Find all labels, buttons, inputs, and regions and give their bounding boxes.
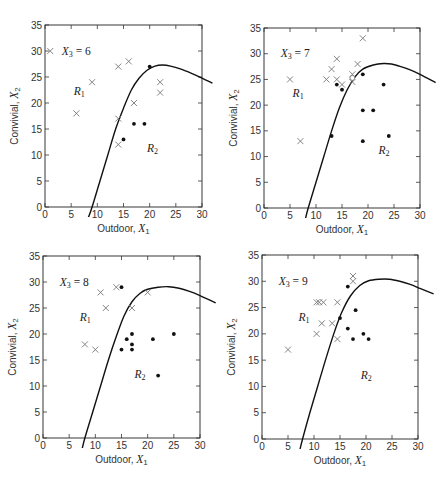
dot-marker (382, 83, 386, 87)
x-tick-label: 20 (142, 440, 154, 451)
y-tick-label: 20 (250, 100, 262, 111)
x-tick-label: 20 (360, 441, 372, 452)
dot-marker (125, 337, 129, 341)
x-tick-label: 10 (308, 441, 320, 452)
y-tick-label: 30 (250, 48, 262, 59)
x-axis-label: Outdoor, X1 (95, 453, 148, 467)
y-tick-label: 20 (29, 329, 41, 340)
y-tick-label: 15 (29, 355, 41, 366)
cross-marker (360, 35, 366, 41)
dot-marker (148, 65, 152, 69)
x-axis-label: Outdoor, X1 (97, 222, 150, 236)
cross-marker (145, 289, 151, 295)
y-tick-label: 5 (255, 177, 261, 188)
region-label-r1: R1 (297, 311, 309, 325)
dot-marker (120, 348, 124, 352)
cross-marker (339, 82, 345, 88)
x-tick-label: 15 (118, 209, 130, 220)
cross-marker (131, 100, 137, 106)
x-tick-label: 25 (388, 210, 400, 221)
y-tick-label: 30 (29, 277, 41, 288)
panel-title: X3 = 8 (59, 276, 89, 290)
y-tick-label: 25 (250, 74, 262, 85)
cross-marker (98, 289, 104, 295)
y-tick-label: 0 (255, 203, 261, 214)
x-tick-label: 15 (116, 440, 128, 451)
circle-marker (350, 75, 355, 80)
y-tick-label: 5 (34, 407, 40, 418)
cross-marker (115, 64, 121, 70)
cross-marker (334, 76, 340, 82)
y-tick-label: 0 (36, 202, 42, 213)
y-tick-label: 30 (31, 46, 43, 57)
y-axis-label: Convivial, X2 (8, 87, 22, 145)
panel-title: X3 = 6 (61, 45, 91, 59)
cross-marker (329, 66, 335, 72)
y-tick-label: 10 (248, 381, 260, 392)
y-tick-label: 10 (31, 150, 43, 161)
panel-x3-8: 05101520253005101520253035Outdoor, X1Con… (6, 251, 216, 468)
y-tick-label: 0 (253, 434, 259, 445)
dot-marker (346, 285, 350, 289)
boundary-curve (88, 65, 212, 217)
boundary-curve (82, 287, 215, 449)
dot-marker (172, 332, 176, 336)
dot-marker (371, 108, 375, 112)
dot-marker (130, 332, 134, 336)
y-tick-label: 25 (31, 72, 43, 83)
cross-marker (320, 299, 326, 305)
panel-x3-6: 05101520253005101520253035Outdoor, X1Con… (8, 20, 212, 237)
cross-marker (82, 341, 88, 347)
y-tick-label: 35 (250, 23, 262, 34)
y-tick-label: 25 (29, 303, 41, 314)
cross-marker (314, 331, 320, 337)
cross-marker (129, 305, 135, 311)
dot-marker (361, 139, 365, 143)
dot-marker (130, 343, 134, 347)
cross-marker (355, 61, 361, 67)
dot-marker (130, 348, 134, 352)
cross-marker (89, 79, 95, 85)
cross-marker (103, 305, 109, 311)
y-tick-label: 15 (250, 125, 262, 136)
y-axis-label: Convivial, X2 (6, 318, 20, 376)
dot-marker (367, 337, 371, 341)
x-tick-label: 10 (90, 440, 102, 451)
y-axis-label: Convivial, X2 (225, 318, 239, 376)
cross-marker (323, 76, 329, 82)
panel-title: X3 = 9 (278, 275, 308, 289)
panel-title: X3 = 7 (280, 47, 310, 61)
region-label-r2: R2 (146, 142, 158, 156)
y-tick-label: 5 (253, 407, 259, 418)
panel-x3-9: 05101520253005101520253035Outdoor, X1Con… (225, 250, 434, 469)
x-tick-label: 30 (412, 441, 424, 452)
y-tick-label: 25 (248, 302, 260, 313)
dot-marker (335, 83, 339, 87)
y-tick-label: 15 (248, 355, 260, 366)
cross-marker (319, 320, 325, 326)
dot-marker (340, 88, 344, 92)
region-label-r1: R1 (292, 87, 304, 101)
cross-marker (92, 347, 98, 353)
cross-marker (350, 278, 356, 284)
y-axis-label: Convivial, X2 (227, 89, 241, 147)
cross-marker (73, 110, 79, 116)
y-tick-label: 10 (250, 151, 262, 162)
y-tick-label: 35 (31, 20, 43, 31)
x-tick-label: 15 (334, 441, 346, 452)
x-tick-label: 20 (144, 209, 156, 220)
cross-marker (350, 273, 356, 279)
figure: 05101520253005101520253035Outdoor, X1Con… (0, 0, 448, 478)
dot-marker (354, 308, 358, 312)
dot-marker (351, 337, 355, 341)
region-label-r1: R1 (79, 311, 91, 325)
x-tick-label: 20 (362, 210, 374, 221)
y-tick-label: 15 (31, 124, 43, 135)
dot-marker (361, 108, 365, 112)
cross-marker (113, 284, 119, 290)
x-tick-label: 5 (287, 210, 293, 221)
x-axis-label: Outdoor, X1 (314, 454, 367, 468)
cross-marker (285, 347, 291, 353)
dot-marker (346, 327, 350, 331)
region-label-r2: R2 (360, 369, 372, 383)
